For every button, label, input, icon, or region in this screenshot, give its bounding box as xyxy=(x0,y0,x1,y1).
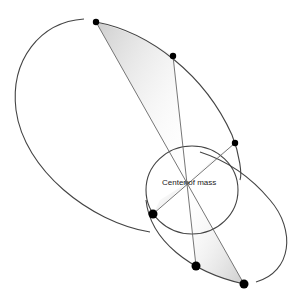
body-b-dot-1 xyxy=(149,210,158,219)
body-a-dot-2 xyxy=(170,53,176,59)
body-b-dot-3 xyxy=(240,280,249,289)
body-a-dot-1 xyxy=(93,19,99,25)
body-b-dot-2 xyxy=(192,262,201,271)
body-a-dot-3 xyxy=(232,140,238,146)
orbit-diagram xyxy=(0,0,297,303)
center-of-mass-label: Center of mass xyxy=(162,178,216,187)
